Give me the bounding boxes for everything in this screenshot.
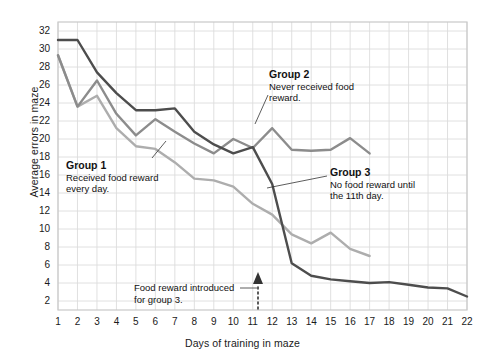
annotation-group2-line2: reward. (269, 92, 301, 103)
y-tick-label: 20 (26, 133, 50, 144)
y-tick-label: 2 (26, 295, 50, 306)
annotation-group2: Group 2 Never received food reward. (269, 68, 354, 104)
annotation-group1: Group 1 Received food reward every day. (66, 159, 158, 195)
x-tick-label: 12 (262, 316, 282, 327)
x-tick-label: 14 (301, 316, 321, 327)
x-tick-label: 13 (282, 316, 302, 327)
x-tick-label: 22 (457, 316, 477, 327)
y-tick-label: 30 (26, 43, 50, 54)
annotation-group2-line1: Never received food (269, 81, 354, 92)
y-tick-label: 14 (26, 187, 50, 198)
y-tick-label: 16 (26, 169, 50, 180)
x-tick-label: 6 (145, 316, 165, 327)
x-tick-label: 1 (48, 316, 68, 327)
annotation-group3-line2: the 11th day. (330, 190, 384, 201)
annotation-group3: Group 3 No food reward until the 11th da… (330, 166, 415, 202)
annotation-food-reward-line2: for group 3. (134, 294, 183, 305)
y-tick-label: 6 (26, 259, 50, 270)
x-tick-label: 15 (321, 316, 341, 327)
x-tick-label: 9 (204, 316, 224, 327)
x-axis-label: Days of training in maze (0, 337, 485, 349)
annotation-group1-line1: Received food reward (66, 172, 158, 183)
y-tick-label: 18 (26, 151, 50, 162)
x-tick-label: 19 (399, 316, 419, 327)
x-tick-label: 18 (379, 316, 399, 327)
annotation-group3-line1: No food reward until (330, 179, 415, 190)
y-tick-label: 12 (26, 205, 50, 216)
food-reward-arrow (253, 272, 263, 309)
x-tick-label: 21 (438, 316, 458, 327)
annotation-group1-line2: every day. (66, 183, 109, 194)
annotation-group1-title: Group 1 (66, 159, 158, 172)
x-tick-label: 17 (360, 316, 380, 327)
y-tick-label: 28 (26, 61, 50, 72)
x-tick-label: 3 (87, 316, 107, 327)
x-tick-label: 2 (67, 316, 87, 327)
y-tick-label: 32 (26, 25, 50, 36)
annotation-group2-title: Group 2 (269, 68, 354, 81)
x-tick-label: 11 (243, 316, 263, 327)
x-tick-label: 16 (340, 316, 360, 327)
chart-figure: Average errors in maze Days of training … (0, 0, 485, 364)
x-tick-label: 5 (126, 316, 146, 327)
y-tick-label: 10 (26, 223, 50, 234)
y-tick-label: 26 (26, 79, 50, 90)
x-tick-label: 20 (418, 316, 438, 327)
x-tick-label: 8 (184, 316, 204, 327)
x-tick-label: 10 (223, 316, 243, 327)
x-tick-label: 7 (165, 316, 185, 327)
y-tick-label: 8 (26, 241, 50, 252)
annotation-food-reward: Food reward introduced for group 3. (134, 282, 238, 305)
arrow-head (253, 272, 263, 284)
annotation-group3-title: Group 3 (330, 166, 415, 179)
y-tick-label: 24 (26, 97, 50, 108)
y-tick-label: 22 (26, 115, 50, 126)
leader-line-group2 (255, 95, 268, 124)
x-tick-label: 4 (106, 316, 126, 327)
y-tick-label: 4 (26, 277, 50, 288)
annotation-food-reward-line1: Food reward introduced (134, 282, 234, 293)
leader-line-group3 (267, 176, 327, 188)
